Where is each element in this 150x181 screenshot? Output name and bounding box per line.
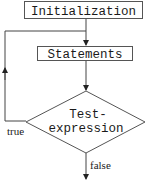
false-exit-edge: false <box>86 153 111 179</box>
initialization-label: Initialization <box>31 5 136 19</box>
test-expression-node: Test- expression <box>26 91 145 153</box>
initialization-node: Initialization <box>25 2 143 19</box>
false-label: false <box>90 159 111 171</box>
true-label: true <box>7 125 24 137</box>
statements-label: Statements <box>47 48 122 62</box>
test-expression-label-line2: expression <box>48 122 123 136</box>
flowchart: Initialization Statements Test- expressi… <box>0 0 150 181</box>
statements-node: Statements <box>38 47 133 62</box>
test-expression-label-line1: Test- <box>69 108 107 122</box>
